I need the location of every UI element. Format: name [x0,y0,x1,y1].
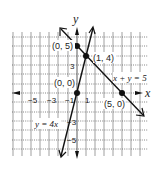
point-5-0 [119,90,125,96]
x-tick-label: 1 [85,96,90,105]
x-tick-labels: −5 −3 −1 1 [28,96,90,105]
y-axis-down-arrow-icon [75,151,79,159]
y-axis-label: y [72,12,79,26]
y-tick-label: −5 [67,136,77,145]
equation-label-y-4x: y = 4x [34,119,58,129]
point-label-0-5: (0, 5) [52,41,73,51]
coordinate-graph: y x −5 −3 −1 1 3 −3 −5 (0, 5) (1, 4) (0,… [0,0,161,169]
x-axis-right-arrow-icon [135,91,143,95]
point-label-5-0: (5, 0) [104,99,125,109]
equation-label-x-plus-y-5: x + y = 5 [112,73,147,83]
point-label-0-0: (0, 0) [54,78,75,88]
x-tick-label: −3 [47,96,57,105]
point-0-0 [74,90,80,96]
x-tick-label: −5 [28,96,38,105]
y-tick-label: 3 [70,62,75,71]
point-1-4 [83,53,89,59]
y-axis-up-arrow-icon [75,27,79,35]
x-axis-label: x [144,86,151,100]
x-tick-label: −1 [65,96,75,105]
grid [12,32,148,156]
point-label-1-4: (1, 4) [93,53,114,63]
